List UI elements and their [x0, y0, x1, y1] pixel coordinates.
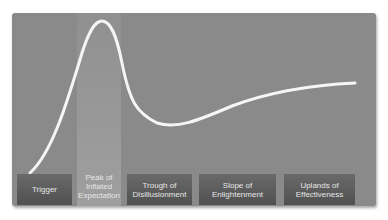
phase-label: Inflated [86, 182, 112, 191]
phase-label: Uplands of [300, 181, 338, 190]
phase-label: Peak of [85, 173, 112, 182]
phase-trigger: Trigger [17, 174, 72, 205]
phase-label: Disillusionment [133, 190, 187, 199]
phase-label: Slope of [223, 181, 252, 190]
phase-label: Effectiveness [296, 190, 343, 199]
phase-label: Enlightenment [212, 190, 263, 199]
phase-peak: Peak of Inflated Expectation [77, 168, 121, 205]
phase-slope: Slope of Enlightenment [199, 174, 276, 205]
phase-label: Expectation [78, 191, 120, 200]
phase-label: Trigger [32, 185, 57, 194]
hype-cycle-panel: Trigger Peak of Inflated Expectation Tro… [12, 13, 376, 206]
phase-label: Trough of [143, 181, 177, 190]
phase-uplands: Uplands of Effectiveness [284, 174, 355, 205]
phase-trough: Trough of Disillusionment [127, 174, 192, 205]
